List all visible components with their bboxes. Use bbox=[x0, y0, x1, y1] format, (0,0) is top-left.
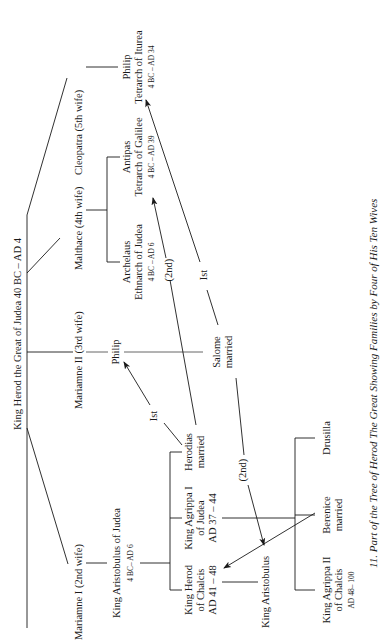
root-herod: King Herod the Great of Judea 40 BC – AD… bbox=[12, 215, 27, 628]
svg-text:Berenice: Berenice bbox=[321, 496, 332, 534]
mariamne1-connector bbox=[27, 428, 68, 564]
svg-text:King Agrippa I: King Agrippa I bbox=[183, 486, 194, 550]
svg-text:King Agrippa II: King Agrippa II bbox=[321, 556, 332, 624]
svg-text:Tetrarch of Iturea: Tetrarch of Iturea bbox=[133, 30, 144, 104]
king-aristobulus-node: King Aristobulus bbox=[260, 556, 271, 628]
svg-text:AD 48– 100: AD 48– 100 bbox=[347, 571, 356, 608]
wife-mariamne2: Mariamne II (3rd wife) bbox=[73, 311, 85, 409]
antipas-node: Antipas Tetrarch of Galilee 4 BC – AD 39 bbox=[121, 117, 156, 196]
svg-text:Salome: Salome bbox=[211, 336, 222, 368]
herodias-philip-arrow bbox=[124, 362, 150, 405]
svg-text:Philip: Philip bbox=[121, 54, 132, 79]
svg-text:Antipas: Antipas bbox=[121, 141, 132, 174]
herodias-node: Herodias married bbox=[183, 433, 206, 471]
svg-text:Tetrarch of Galilee: Tetrarch of Galilee bbox=[133, 117, 144, 196]
svg-text:AD 41 – 48: AD 41 – 48 bbox=[207, 565, 218, 614]
svg-text:AD 37 – 44: AD 37 – 44 bbox=[207, 493, 218, 543]
svg-text:Ethnarch of Judea: Ethnarch of Judea bbox=[133, 224, 144, 300]
svg-text:of Judea: of Judea bbox=[195, 500, 206, 536]
philip-node: Philip bbox=[110, 339, 121, 364]
berenice-node: Berenice married bbox=[321, 496, 344, 534]
salome-aristobulus-label: (2nd) bbox=[237, 458, 249, 481]
herod-family-tree-diagram: King Herod the Great of Judea 40 BC – AD… bbox=[0, 0, 384, 641]
aristobulus-node: King Aristobulus of Judea 4 BC– AD 6 bbox=[111, 508, 135, 618]
drusilla-node: Drusilla bbox=[321, 421, 332, 455]
svg-text:Archelaus: Archelaus bbox=[121, 241, 132, 284]
svg-text:of Chalcis: of Chalcis bbox=[195, 569, 206, 612]
svg-text:of Chalcis: of Chalcis bbox=[333, 569, 344, 612]
wife-cleopatra: Cleopatra (5th wife) bbox=[73, 89, 85, 175]
svg-text:married: married bbox=[223, 335, 234, 368]
herodias-philip-label: Ist bbox=[148, 411, 159, 422]
salome-philip-tetrarch-arrow bbox=[146, 100, 200, 262]
herodias-philip-arrow-seg1 bbox=[164, 423, 182, 445]
salome-philip-tetrarch-label: Ist bbox=[198, 270, 209, 281]
svg-text:4 BC – AD 6: 4 BC – AD 6 bbox=[147, 242, 156, 281]
salome-node: Salome married bbox=[211, 335, 234, 368]
svg-text:4 BC – AD 34: 4 BC – AD 34 bbox=[147, 45, 156, 88]
malthace-connector bbox=[27, 238, 60, 273]
herod-chalcis-node: King Herod of Chalcis AD 41 – 48 bbox=[183, 564, 218, 615]
figure-caption: 11. Part of the Tree of Herod The Great … bbox=[367, 199, 379, 568]
svg-text:married: married bbox=[195, 435, 206, 468]
herodias-antipas-arrow-seg1 bbox=[170, 280, 196, 425]
cleopatra-connector bbox=[27, 78, 67, 215]
svg-text:married: married bbox=[333, 498, 344, 531]
agrippa1-node: King Agrippa I of Judea AD 37 – 44 bbox=[183, 486, 218, 550]
salome-aristobulus-arrow bbox=[248, 485, 264, 545]
wife-malthace: Malthace (4th wife) bbox=[73, 186, 85, 270]
svg-text:King Herod: King Herod bbox=[183, 564, 194, 615]
archelaus-node: Archelaus Ethnarch of Judea 4 BC – AD 6 bbox=[121, 224, 156, 300]
svg-text:Herodias: Herodias bbox=[183, 433, 194, 471]
svg-text:King Aristobulus of Judea: King Aristobulus of Judea bbox=[111, 508, 122, 618]
philip-tetrarch-node: Philip Tetrarch of Iturea 4 BC – AD 34 bbox=[121, 30, 156, 104]
svg-text:4 BC– AD 6: 4 BC– AD 6 bbox=[126, 544, 135, 582]
herod-label: King Herod the Great of Judea 40 BC – AD… bbox=[12, 237, 23, 430]
wife-mariamne1: Mariamne I (2nd wife) bbox=[73, 544, 85, 640]
agrippa2-node: King Agrippa II of Chalcis AD 48– 100 bbox=[321, 556, 356, 624]
herodias-antipas-label: (2nd) bbox=[163, 258, 175, 281]
svg-text:4 BC – AD 39: 4 BC – AD 39 bbox=[147, 135, 156, 178]
